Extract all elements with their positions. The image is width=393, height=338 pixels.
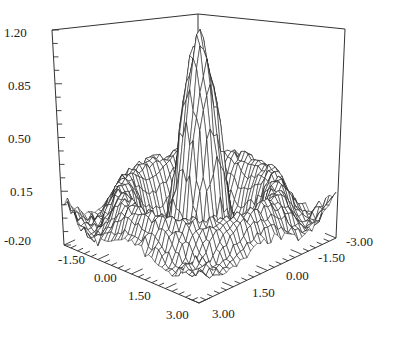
x-tick-label: 0.00: [94, 270, 117, 285]
z-tick-label: 1.20: [4, 25, 27, 40]
surface-plot: 1.200.850.500.15-0.20 -1.500.001.503.00 …: [0, 0, 393, 338]
z-axis-labels: 1.200.850.500.15-0.20: [4, 25, 33, 248]
x-tick-label: -1.50: [58, 252, 85, 267]
z-tick-label: 0.15: [10, 184, 33, 199]
x-tick-label: 1.50: [128, 288, 151, 303]
z-axis-ticks: [52, 30, 71, 245]
y-tick-label: -3.00: [346, 234, 373, 249]
x-tick-label: 3.00: [166, 307, 189, 322]
wireframe-surface: [64, 30, 336, 278]
y-tick-label: 1.50: [252, 285, 275, 300]
z-tick-label: 0.50: [8, 131, 31, 146]
z-tick-label: -0.20: [4, 233, 31, 248]
y-tick-label: -1.50: [318, 250, 345, 265]
y-tick-label: 3.00: [212, 306, 235, 321]
z-tick-label: 0.85: [8, 78, 31, 93]
y-tick-label: 0.00: [286, 268, 309, 283]
